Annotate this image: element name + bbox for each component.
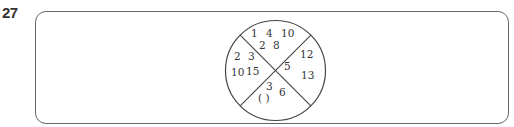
number-circle-figure: 1 4 10 2 8 2 3 10 15 12 5 13 3 6 ( ) bbox=[0, 0, 514, 127]
top-number: 10 bbox=[281, 27, 294, 39]
left-number: 3 bbox=[248, 50, 255, 62]
left-number: 2 bbox=[234, 50, 241, 62]
top-number: 1 bbox=[251, 27, 258, 39]
top-number: 4 bbox=[266, 27, 273, 39]
right-number: 5 bbox=[284, 60, 291, 72]
answer-blank: ( ) bbox=[258, 92, 270, 104]
bottom-number: 6 bbox=[279, 86, 286, 98]
right-number: 12 bbox=[300, 48, 313, 60]
left-number: 15 bbox=[246, 65, 259, 77]
bottom-number: 3 bbox=[266, 80, 273, 92]
left-number: 10 bbox=[231, 66, 244, 78]
top-number: 2 bbox=[259, 39, 266, 51]
top-number: 8 bbox=[273, 39, 280, 51]
right-number: 13 bbox=[301, 69, 314, 81]
